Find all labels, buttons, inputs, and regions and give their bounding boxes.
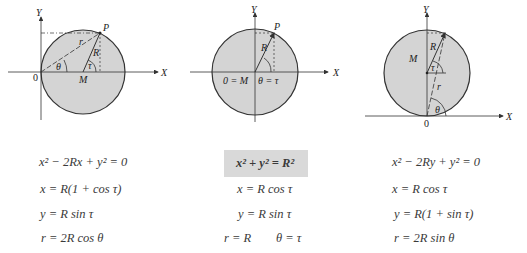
right-center-label: M (408, 53, 418, 64)
middle-y-label: Y (251, 4, 258, 15)
left-eq-y: y = R sin τ (40, 207, 93, 222)
right-eq-x: x = R cos τ (392, 182, 447, 197)
right-eq-cartesian: x² − 2Ry + y² = 0 (392, 155, 480, 170)
left-tau-label: τ (88, 60, 92, 71)
middle-angle-label: θ = τ (258, 75, 279, 86)
diagrams-figure: Y X 0 M P R r θ τ Y X P R 0 = M θ = τ (0, 0, 527, 140)
right-x-label: X (505, 111, 513, 122)
middle-center-label: 0 = M (223, 75, 249, 86)
right-polar-label: r (437, 81, 441, 92)
middle-point-label: P (273, 21, 280, 32)
left-polar-label: r (79, 36, 83, 47)
middle-eq-r: r = R (224, 231, 251, 246)
right-origin-label: 0 (424, 118, 429, 129)
middle-diagram: Y X P R 0 = M θ = τ (190, 4, 340, 122)
left-eq-x: x = R(1 + cos τ) (40, 182, 121, 197)
middle-eq-x: x = R cos τ (237, 182, 292, 197)
right-tau-label: τ (431, 62, 435, 73)
middle-eq-theta: θ = τ (276, 231, 301, 246)
left-diagram: Y X 0 M P R r θ τ (8, 7, 168, 120)
middle-eq-y: y = R sin τ (238, 207, 291, 222)
left-point-label: P (102, 22, 109, 33)
left-eq-cartesian: x² − 2Rx + y² = 0 (39, 155, 127, 170)
left-x-label: X (160, 67, 168, 78)
left-y-label: Y (36, 7, 43, 18)
right-eq-polar: r = 2R sin θ (394, 231, 454, 246)
left-radius-label: R (92, 47, 99, 58)
middle-radius-label: R (260, 42, 267, 53)
right-y-label: Y (423, 4, 430, 15)
middle-x-label: X (332, 67, 340, 78)
middle-eq-cartesian: x² + y² = R² (236, 156, 294, 171)
right-eq-y: y = R(1 + sin τ) (394, 207, 473, 222)
left-origin-label: 0 (33, 72, 38, 83)
left-eq-polar: r = 2R cos θ (41, 231, 104, 246)
left-theta-label: θ (56, 61, 61, 72)
left-center-label: M (78, 74, 88, 85)
right-radius-label: R (429, 41, 436, 52)
right-theta-label: θ (435, 104, 440, 115)
right-diagram: Y X 0 M R r θ τ (365, 4, 513, 129)
